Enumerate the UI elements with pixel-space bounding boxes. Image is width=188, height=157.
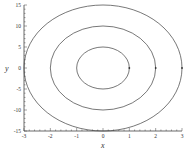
ellipse-inner-marker	[128, 67, 130, 69]
y-axis-label: y	[4, 64, 9, 73]
level-curves	[24, 5, 183, 131]
y-tick-label: 5	[18, 44, 21, 50]
x-tick-label: 3	[181, 133, 184, 139]
y-tick-label: 0	[18, 65, 21, 71]
y-tick-label: 10	[16, 23, 22, 29]
x-tick-label: -3	[22, 133, 27, 139]
x-ticks: -3-2-10123	[22, 128, 184, 139]
y-tick-label: -10	[14, 107, 22, 113]
ellipse-outer-marker	[181, 67, 183, 69]
y-tick-label: -15	[14, 128, 22, 134]
y-ticks: 151050-5-10-15	[14, 2, 27, 134]
y-tick-label: -5	[16, 86, 21, 92]
y-tick-label: 15	[16, 2, 22, 8]
x-tick-label: -1	[74, 133, 79, 139]
x-tick-label: 0	[102, 133, 105, 139]
x-tick-label: 2	[154, 133, 157, 139]
ellipse-inner	[77, 47, 130, 89]
ellipse-middle	[50, 26, 155, 110]
chart: -3-2-10123 151050-5-10-15 x y	[0, 0, 188, 157]
x-axis-label: x	[100, 141, 105, 150]
ellipse-middle-marker	[155, 67, 157, 69]
x-tick-label: -2	[48, 133, 53, 139]
ellipse-outer	[24, 5, 182, 131]
x-tick-label: 1	[128, 133, 131, 139]
